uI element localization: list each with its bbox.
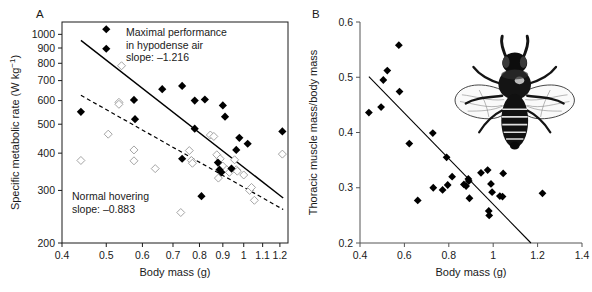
annotation-maximal-performance: slope: –1.216 [126, 51, 189, 63]
x-tick-label: 0.5 [99, 249, 114, 261]
data-point-thoracic-ratio [395, 41, 403, 49]
x-tick-label: 1.1 [255, 249, 270, 261]
data-point-thoracic-ratio [466, 194, 474, 202]
x-tick-label: 0.8 [192, 249, 207, 261]
x-tick-label: 0.4 [55, 249, 70, 261]
panel-a: 20030040050060070080090010000.40.50.60.7… [0, 0, 300, 292]
x-tick-label: 1 [241, 249, 247, 261]
panel-b-svg: 0.20.30.40.50.60.40.60.811.21.4Body mass… [300, 0, 592, 292]
regression-line-maximal [81, 40, 283, 198]
annotation-normal-hovering: Normal hovering [72, 190, 149, 202]
data-point-thoracic-ratio [365, 109, 373, 117]
data-point-normal-hovering [185, 147, 193, 155]
annotation-maximal-performance: Maximal performance [126, 26, 227, 38]
svg-text:Specific metabolic rate (W kg−: Specific metabolic rate (W kg−1) [8, 55, 21, 210]
data-point-thoracic-ratio [429, 184, 437, 192]
x-tick-label: 1.2 [530, 249, 545, 261]
data-point-maximal-performance [244, 140, 252, 148]
data-point-maximal-performance [178, 155, 186, 163]
panel-a-x-axis-label: Body mass (g) [140, 266, 211, 278]
data-point-maximal-performance [219, 101, 227, 109]
data-point-maximal-performance [102, 45, 110, 53]
data-point-maximal-performance [197, 192, 205, 200]
annotation-maximal-performance: in hypodense air [126, 39, 204, 51]
figure-container: 20030040050060070080090010000.40.50.60.7… [0, 0, 592, 292]
y-tick-label: 200 [37, 237, 55, 249]
data-point-thoracic-ratio [396, 88, 404, 96]
data-point-maximal-performance [130, 96, 138, 104]
data-point-thoracic-ratio [484, 166, 492, 174]
data-point-thoracic-ratio [499, 169, 507, 177]
bee-illustration [455, 36, 574, 149]
y-tick-label: 900 [37, 42, 55, 54]
x-tick-label: 1.2 [273, 249, 288, 261]
y-tick-label: 400 [37, 147, 55, 159]
y-tick-label: 800 [37, 57, 55, 69]
data-point-normal-hovering [151, 165, 159, 173]
data-point-thoracic-ratio [539, 189, 547, 197]
data-point-maximal-performance [191, 96, 199, 104]
data-point-thoracic-ratio [439, 186, 447, 194]
data-point-normal-hovering [278, 150, 286, 158]
data-point-maximal-performance [178, 82, 186, 90]
data-point-thoracic-ratio [383, 67, 391, 75]
data-point-normal-hovering [104, 130, 112, 138]
data-point-maximal-performance [278, 127, 286, 135]
panel-b-axes [360, 22, 582, 243]
y-tick-label: 0.2 [338, 237, 353, 249]
data-point-thoracic-ratio [414, 197, 422, 205]
data-point-thoracic-ratio [379, 76, 387, 84]
y-tick-label: 0.4 [338, 126, 353, 138]
data-point-maximal-performance [77, 108, 85, 116]
panel-a-y-axis-label: Specific metabolic rate (W kg−1) [8, 55, 21, 210]
y-tick-label: 300 [37, 184, 55, 196]
data-point-maximal-performance [201, 95, 209, 103]
data-point-thoracic-ratio [488, 188, 496, 196]
data-point-thoracic-ratio [485, 211, 493, 219]
data-point-thoracic-ratio [429, 129, 437, 137]
data-point-thoracic-ratio [443, 153, 451, 161]
data-point-normal-hovering [77, 156, 85, 164]
y-tick-label: 600 [37, 94, 55, 106]
x-tick-label: 1 [490, 249, 496, 261]
data-point-thoracic-ratio [444, 181, 452, 189]
y-tick-label: 0.5 [338, 71, 353, 83]
data-point-maximal-performance [131, 115, 139, 123]
data-point-thoracic-ratio [477, 169, 485, 177]
data-point-maximal-performance [102, 25, 110, 33]
y-tick-label: 0.6 [338, 16, 353, 28]
x-tick-label: 0.6 [397, 249, 412, 261]
panel-b-x-axis-label: Body mass (g) [436, 266, 507, 278]
data-point-thoracic-ratio [448, 173, 456, 181]
panel-b-y-axis-label: Thoracic muscle mass/body mass [307, 49, 319, 215]
y-tick-label: 0.3 [338, 181, 353, 193]
panel-a-svg: 20030040050060070080090010000.40.50.60.7… [0, 0, 300, 292]
data-point-normal-hovering [130, 157, 138, 165]
data-point-thoracic-ratio [405, 140, 413, 148]
x-tick-label: 0.6 [135, 249, 150, 261]
y-tick-label: 500 [37, 118, 55, 130]
panel-b-label: B [312, 8, 320, 20]
x-tick-label: 0.7 [166, 249, 181, 261]
data-point-maximal-performance [235, 134, 243, 142]
data-point-normal-hovering [130, 146, 138, 154]
data-point-maximal-performance [232, 146, 240, 154]
data-point-thoracic-ratio [487, 180, 495, 188]
x-tick-label: 0.9 [216, 249, 231, 261]
data-point-normal-hovering [177, 209, 185, 217]
annotation-normal-hovering: slope: –0.883 [72, 203, 135, 215]
data-point-maximal-performance [221, 113, 229, 121]
panel-a-label: A [36, 8, 44, 20]
x-tick-label: 0.8 [441, 249, 456, 261]
data-point-maximal-performance [158, 85, 166, 93]
y-tick-label: 700 [37, 74, 55, 86]
x-tick-label: 1.4 [575, 249, 590, 261]
data-point-normal-hovering [118, 62, 126, 70]
x-tick-label: 0.4 [353, 249, 368, 261]
panel-b: 0.20.30.40.50.60.40.60.811.21.4Body mass… [300, 0, 592, 292]
data-point-normal-hovering [250, 196, 258, 204]
y-tick-label: 1000 [32, 28, 56, 40]
data-point-thoracic-ratio [377, 103, 385, 111]
